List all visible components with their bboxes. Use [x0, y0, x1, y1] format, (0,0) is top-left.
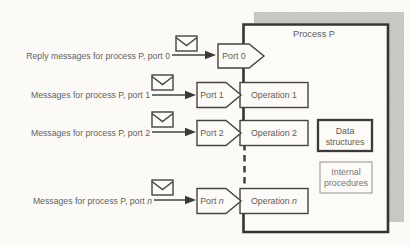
operation-n-label-prefix: Operation [251, 196, 292, 206]
internal-procedures-label-line1: Internal [331, 167, 360, 177]
operation-2-label: Operation 2 [251, 128, 297, 138]
port-n-label: Port n [200, 196, 224, 206]
message-label-1: Messages for process P, port 1 [31, 90, 150, 100]
port-0-label: Port 0 [222, 51, 246, 61]
diagram-canvas: Process P Reply messages for process P, … [0, 0, 410, 247]
envelope-icon [152, 112, 173, 127]
arrow-1 [152, 91, 196, 100]
message-label-n: Messages for process P, port n [33, 196, 152, 206]
message-label-n-prefix: Messages for process P, port [33, 196, 147, 206]
envelope-icon [152, 75, 173, 90]
port-n-label-variable: n [219, 196, 224, 206]
arrow-2 [152, 128, 196, 137]
arrow-n [154, 196, 196, 205]
message-label-0: Reply messages for process P, port 0 [26, 51, 170, 61]
process-title: Process P [293, 29, 335, 39]
operation-1-label: Operation 1 [251, 90, 297, 100]
data-structures-label-line2: structures [326, 137, 365, 147]
ports-process-diagram: Process P Reply messages for process P, … [0, 0, 410, 247]
arrow-0 [172, 51, 216, 60]
message-label-2: Messages for process P, port 2 [31, 128, 150, 138]
internal-procedures-label-line2: procedures [324, 178, 369, 188]
port-2-label: Port 2 [200, 128, 224, 138]
operation-n-label-variable: n [292, 196, 297, 206]
envelope-icon [176, 36, 197, 51]
port-1-label: Port 1 [200, 90, 224, 100]
envelope-icon [152, 180, 173, 195]
port-n-label-prefix: Port [200, 196, 219, 206]
data-structures-label-line1: Data [336, 126, 355, 136]
message-label-n-variable: n [147, 196, 152, 206]
operation-n-label: Operation n [251, 196, 297, 206]
